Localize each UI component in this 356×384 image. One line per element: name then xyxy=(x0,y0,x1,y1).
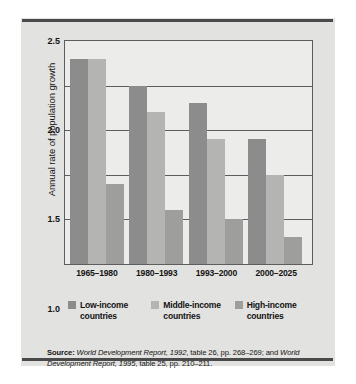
x-axis-label: 1993–2000 xyxy=(189,268,249,278)
bar xyxy=(189,103,207,264)
y-axis-tick: 1.0 xyxy=(47,304,60,314)
legend-item: High-incomecountries xyxy=(235,300,318,321)
source-title-1: World Development Report, 1992 xyxy=(75,348,187,357)
plot-area: 00.51.01.52.02.5 xyxy=(64,40,313,265)
top-rule xyxy=(22,19,333,22)
x-axis-label: 1980–1993 xyxy=(129,268,189,278)
legend-label-line1: Middle-income xyxy=(163,300,221,311)
source-detail-1: , table 26, pp. 268–269; and xyxy=(186,348,280,357)
legend-swatch xyxy=(68,301,76,309)
source-label: Source: xyxy=(47,348,75,357)
legend-label-line2: countries xyxy=(163,311,221,322)
bar-group xyxy=(70,41,129,264)
legend-item: Middle-incomecountries xyxy=(151,300,234,321)
bar-group xyxy=(129,41,188,264)
bar xyxy=(225,219,243,264)
bar xyxy=(70,59,88,264)
x-axis-label: 2000–2025 xyxy=(248,268,308,278)
bar xyxy=(106,184,124,264)
x-axis-labels: 1965–19801980–19931993–20002000–2025 xyxy=(64,268,313,278)
legend-label-line1: Low-income xyxy=(80,300,128,311)
legend-swatch xyxy=(235,301,243,309)
bar-group xyxy=(248,41,307,264)
figure-panel: Annual rate of population growth 00.51.0… xyxy=(21,18,335,366)
y-axis-tick: 1.5 xyxy=(47,214,60,224)
x-axis-label: 1965–1980 xyxy=(69,268,129,278)
bar xyxy=(248,139,266,264)
y-axis-tick: 2.0 xyxy=(47,125,60,135)
legend: Low-incomecountriesMiddle-incomecountrie… xyxy=(68,300,318,321)
legend-swatch xyxy=(151,301,159,309)
bar-group xyxy=(189,41,248,264)
source-note: Source: World Development Report, 1992, … xyxy=(47,348,315,369)
bar-groups xyxy=(65,41,312,264)
bar xyxy=(129,86,147,264)
legend-label-line2: countries xyxy=(80,311,128,322)
legend-label-line1: High-income xyxy=(247,300,297,311)
legend-label: High-incomecountries xyxy=(247,300,297,321)
source-detail-2: , table 25, pp. 210–211. xyxy=(135,359,212,368)
legend-label: Low-incomecountries xyxy=(80,300,128,321)
y-axis-tick: 2.5 xyxy=(47,36,60,46)
legend-label: Middle-incomecountries xyxy=(163,300,221,321)
bar xyxy=(88,59,106,264)
legend-label-line2: countries xyxy=(247,311,297,322)
legend-item: Low-incomecountries xyxy=(68,300,151,321)
bar xyxy=(266,175,284,264)
chart-area: Annual rate of population growth 00.51.0… xyxy=(21,28,335,290)
bar xyxy=(284,237,302,264)
bar xyxy=(147,112,165,264)
bar xyxy=(207,139,225,264)
gridline: 0 xyxy=(65,264,312,265)
bar xyxy=(165,210,183,264)
